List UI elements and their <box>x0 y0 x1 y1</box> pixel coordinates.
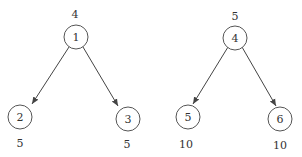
tree-left: 1 4 2 5 3 5 <box>8 8 140 151</box>
node-weight: 10 <box>273 139 287 152</box>
trees-svg: 1 4 2 5 3 5 4 5 5 10 6 10 <box>0 0 302 157</box>
node-weight: 10 <box>179 138 193 151</box>
tree-right: 4 5 5 10 6 10 <box>176 10 292 152</box>
node-4: 4 <box>223 26 247 50</box>
node-label: 1 <box>73 31 80 44</box>
node-3: 3 <box>116 107 140 131</box>
node-label: 6 <box>277 113 284 126</box>
node-2: 2 <box>8 105 32 129</box>
node-label: 4 <box>232 32 239 45</box>
edge-4-6 <box>242 47 276 106</box>
node-6: 6 <box>268 107 292 131</box>
diagram-canvas: 1 4 2 5 3 5 4 5 5 10 6 10 <box>0 0 302 157</box>
node-weight: 5 <box>124 138 131 151</box>
node-1: 1 <box>64 25 88 49</box>
edge-1-2 <box>32 47 69 104</box>
node-label: 5 <box>185 111 192 124</box>
node-weight: 5 <box>17 137 24 150</box>
node-label: 2 <box>17 111 24 124</box>
node-5: 5 <box>176 105 200 129</box>
node-weight: 4 <box>72 8 79 21</box>
node-weight: 5 <box>232 10 239 23</box>
edge-1-3 <box>83 47 118 106</box>
node-label: 3 <box>125 113 132 126</box>
edge-4-5 <box>193 47 228 104</box>
